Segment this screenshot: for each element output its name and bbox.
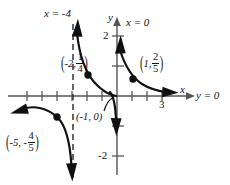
paren-close: )	[160, 55, 164, 73]
paren-open: (	[6, 134, 10, 152]
paren-open: (	[61, 55, 65, 73]
point-label-upper-left: (-2,14)	[61, 52, 88, 74]
point-label-lower-left: (-5, -45)	[6, 131, 39, 153]
point-x-value: -5, -	[10, 137, 28, 148]
denominator: 4	[76, 63, 83, 75]
y-axis-label: y	[108, 12, 113, 23]
x-axis-label: x	[180, 84, 185, 95]
fraction: 25	[152, 52, 159, 74]
paren-close: )	[84, 55, 88, 73]
horizontal-asymptote-label: y = 0	[196, 90, 219, 101]
intercept-label: (-1, 0)	[76, 112, 102, 123]
fraction: 45	[28, 131, 35, 153]
y-axis-asymptote-label: x = 0	[126, 17, 149, 28]
paren-open: (	[140, 55, 144, 73]
fraction: 14	[76, 52, 83, 74]
numerator: 4	[28, 131, 35, 142]
vertical-asymptote-label: x = -4	[44, 8, 71, 19]
y-tick-label-2: 2	[103, 30, 109, 41]
denominator: 5	[152, 63, 159, 75]
denominator: 5	[28, 142, 35, 154]
point-label-right: (1,25)	[140, 52, 163, 74]
point-x-value: 1,	[144, 58, 152, 69]
paren-close: )	[35, 134, 39, 152]
point-x-value: -2,	[65, 58, 76, 69]
x-tick-label-3: 3	[159, 99, 165, 110]
y-tick-label-neg2: -2	[98, 150, 107, 161]
numerator: 2	[152, 52, 159, 63]
numerator: 1	[76, 52, 83, 63]
